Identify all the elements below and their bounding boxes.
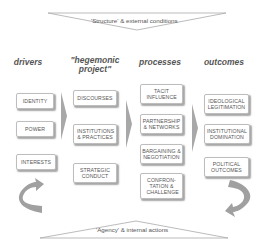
box-label: IDEOLOGICAL LEGITIMATION [207, 98, 247, 110]
box-discourses: DISCOURSES [73, 90, 117, 106]
box-label: DISCOURSES [77, 95, 112, 101]
box-strategic-conduct: STRATEGIC CONDUCT [73, 163, 117, 183]
box-label: POWER [25, 126, 45, 132]
box-label: BARGAINING & NEGOTIATION [142, 148, 181, 160]
box-label: IDENTITY [23, 98, 47, 104]
box-institutional-domination: INSTITUTIONAL DOMINATION [204, 124, 250, 144]
heading-drivers: drivers [10, 58, 46, 67]
box-label: INSTITUTIONS & PRACTICES [77, 128, 113, 140]
chevron-arrow-1 [61, 92, 67, 140]
box-ideological-legitimation: IDEOLOGICAL LEGITIMATION [204, 94, 249, 114]
box-political-outcomes: POLITICAL OUTCOMES [204, 157, 249, 177]
box-tacit-influence: TACIT INFLUENCE [140, 84, 183, 104]
box-power: POWER [16, 121, 54, 137]
curved-arrow-right-icon [225, 180, 250, 217]
top-banner-label: 'Structure' & external conditions [91, 17, 178, 24]
box-label: CONFRON-TATION & CHALLENGE [147, 177, 177, 195]
box-label: POLITICAL OUTCOMES [209, 161, 245, 173]
heading-outcomes: outcomes [201, 58, 247, 67]
box-label: INSTITUTIONAL DOMINATION [206, 128, 248, 140]
box-interests: INTERESTS [16, 154, 56, 170]
box-identity: IDENTITY [16, 93, 54, 109]
chevron-arrow-3 [192, 104, 198, 152]
box-label: STRATEGIC CONDUCT [79, 167, 111, 179]
heading-processes: processes [135, 58, 185, 67]
box-partnership-networks: PARTNERSHIP & NETWORKS [140, 114, 183, 134]
box-label: TACIT INFLUENCE [147, 88, 177, 100]
box-label: PARTNERSHIP & NETWORKS [143, 118, 181, 130]
box-confrontation-challenge: CONFRON-TATION & CHALLENGE [140, 173, 183, 199]
box-bargaining-negotiation: BARGAINING & NEGOTIATION [140, 144, 183, 164]
curved-arrow-left-icon [19, 178, 44, 213]
chevron-arrow-2 [126, 100, 132, 148]
heading-hegemonic-project: "hegemonic project" [70, 56, 120, 74]
bottom-banner-label: 'Agency' & internal actions [96, 226, 168, 233]
box-label: INTERESTS [21, 159, 51, 165]
box-institutions-practices: INSTITUTIONS & PRACTICES [73, 124, 117, 144]
